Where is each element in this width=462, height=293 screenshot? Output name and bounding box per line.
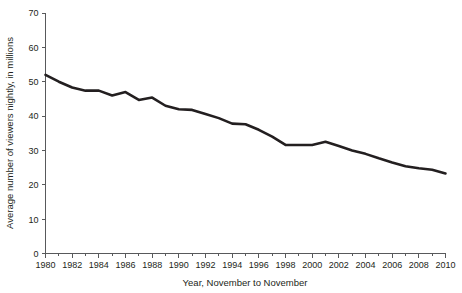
y-tick-label: 70 (28, 8, 38, 18)
y-axis-ticks (42, 13, 46, 254)
x-tick-label: 1990 (169, 260, 189, 270)
y-tick-label: 10 (28, 215, 38, 225)
x-tick-label: 1986 (115, 260, 135, 270)
x-tick-label: 1992 (195, 260, 215, 270)
x-tick-label: 2002 (329, 260, 349, 270)
y-tick-label: 60 (28, 43, 38, 53)
y-tick-label: 20 (28, 180, 38, 190)
y-axis: 010203040506070 (28, 8, 45, 259)
x-tick-label: 1998 (275, 260, 295, 270)
y-tick-label: 40 (28, 111, 38, 121)
line-chart: 010203040506070 198019821984198619881990… (0, 0, 462, 293)
y-tick-label: 30 (28, 146, 38, 156)
x-tick-label: 2010 (435, 260, 455, 270)
x-axis-tick-labels: 1980198219841986198819901992199419961998… (35, 260, 455, 270)
y-axis-tick-labels: 010203040506070 (28, 8, 38, 259)
chart-container: 010203040506070 198019821984198619881990… (0, 0, 462, 293)
x-tick-label: 1996 (249, 260, 269, 270)
x-tick-label: 1994 (222, 260, 242, 270)
viewers-trend-line (46, 75, 446, 174)
x-tick-label: 1980 (35, 260, 55, 270)
x-tick-label: 1988 (142, 260, 162, 270)
y-tick-label: 50 (28, 77, 38, 87)
y-axis-title: Average number of viewers nightly, in mi… (4, 37, 15, 229)
x-axis: 1980198219841986198819901992199419961998… (35, 254, 455, 271)
x-tick-label: 2004 (355, 260, 375, 270)
x-tick-label: 2006 (382, 260, 402, 270)
x-tick-label: 2000 (302, 260, 322, 270)
y-tick-label: 0 (33, 249, 38, 259)
x-tick-label: 2008 (409, 260, 429, 270)
x-axis-title: Year, November to November (183, 277, 308, 288)
x-tick-label: 1984 (89, 260, 109, 270)
x-tick-label: 1982 (62, 260, 82, 270)
